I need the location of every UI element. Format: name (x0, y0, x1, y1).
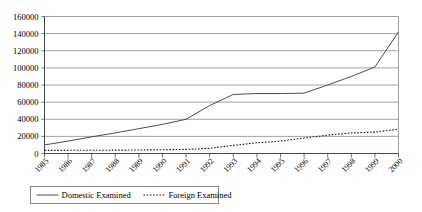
y-axis-tick-label: 20000 (17, 131, 38, 141)
gridlines (42, 17, 399, 154)
legend-label-domestic-examined: Domestic Examined (62, 190, 132, 200)
y-axis-tick-labels: 0200004000060000800001000001200001400001… (13, 12, 39, 159)
x-axis-tick-label: 1987 (80, 157, 98, 175)
line-chart: 0200004000060000800001000001200001400001… (0, 0, 422, 212)
x-axis-tick-label: 1998 (340, 157, 358, 175)
x-axis-tick-label: 1989 (127, 157, 145, 175)
y-axis-tick-label: 40000 (17, 114, 38, 124)
y-axis-tick-label: 0 (34, 149, 38, 159)
x-axis-tick-label: 1995 (269, 157, 287, 175)
y-axis-tick-label: 160000 (13, 12, 39, 22)
legend-label-foreign-examined: Foreign Examined (168, 190, 232, 200)
x-axis-tick-label: 1991 (174, 157, 192, 175)
x-axis-tick-label: 1999 (363, 157, 381, 175)
series-line-domestic-examined (45, 32, 399, 145)
x-axis-tick-label: 1997 (316, 157, 334, 175)
data-series (45, 32, 399, 151)
x-axis-tick-label: 1986 (56, 157, 74, 175)
x-axis-tick-label: 1985 (33, 157, 51, 175)
x-axis-tick-label: 1988 (104, 157, 122, 175)
x-axis-tick-labels: 1985198619871988198919901991199219931994… (33, 157, 405, 175)
x-axis-tick-marks (45, 154, 399, 158)
x-axis-tick-label: 1993 (222, 157, 240, 175)
y-axis-tick-label: 140000 (13, 29, 39, 39)
y-axis-tick-label: 100000 (13, 63, 39, 73)
x-axis-tick-label: 1990 (151, 157, 169, 175)
x-axis-tick-label: 1992 (198, 157, 216, 175)
x-axis-tick-label: 2000 (387, 157, 405, 175)
x-axis-tick-label: 1996 (292, 157, 310, 175)
y-axis-tick-label: 120000 (13, 46, 39, 56)
x-axis-tick-label: 1994 (245, 157, 263, 175)
y-axis-tick-label: 80000 (17, 80, 38, 90)
series-line-foreign-examined (45, 129, 399, 150)
chart-canvas: 0200004000060000800001000001200001400001… (0, 0, 422, 212)
y-axis-tick-label: 60000 (17, 97, 38, 107)
chart-legend: Domestic ExaminedForeign Examined (31, 187, 233, 204)
